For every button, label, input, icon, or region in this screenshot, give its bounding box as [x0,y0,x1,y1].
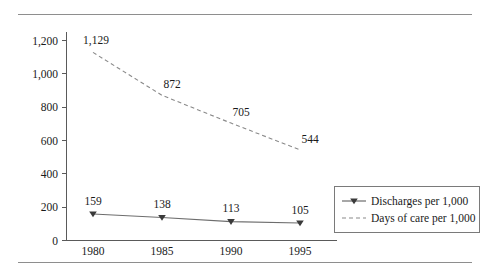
data-label-discharges-1980: 159 [84,195,102,207]
data-label-days-1980: 1,129 [83,34,109,47]
data-labels-discharges: 159 138 113 105 [84,195,309,216]
y-tick-label-1200: 1,200 [32,35,58,48]
data-label-discharges-1990: 113 [223,202,240,214]
legend-label-discharges: Discharges per 1,000 [371,195,468,207]
y-axis-ticks [62,41,67,241]
data-label-discharges-1995: 105 [291,204,309,216]
x-tick-label-1980: 1980 [82,245,105,257]
series-discharges-markers [89,211,304,226]
series-days-of-care-line [93,52,300,149]
y-tick-label-0: 0 [52,235,58,247]
legend-symbol-solid-line-triangle-icon [341,195,367,207]
data-labels-days-of-care: 1,129 872 705 544 [83,34,319,145]
data-label-days-1985: 872 [163,78,181,90]
data-label-days-1990: 705 [232,106,250,118]
data-label-discharges-1985: 138 [153,198,171,210]
y-axis-tick-labels: 1,200 1,000 800 600 400 200 0 [32,35,58,247]
chart-figure: 1,200 1,000 800 600 400 200 0 1980 1985 … [0,0,490,275]
legend-item-days-of-care: Days of care per 1,000 [341,209,473,226]
data-label-days-1995: 544 [301,133,319,145]
legend-symbol-dashed-line-icon [341,212,367,224]
x-axis-tick-labels: 1980 1985 1990 1995 [82,245,312,257]
y-tick-label-200: 200 [41,201,59,213]
y-tick-label-400: 400 [41,168,59,180]
legend-item-discharges: Discharges per 1,000 [341,192,473,209]
y-tick-label-600: 600 [41,135,59,147]
series-discharges-line [93,214,300,223]
chart-legend: Discharges per 1,000 Days of care per 1,… [334,186,480,233]
legend-label-days-of-care: Days of care per 1,000 [371,212,475,224]
line-chart-plot: 1,200 1,000 800 600 400 200 0 1980 1985 … [0,0,490,275]
x-tick-label-1985: 1985 [151,245,174,257]
y-tick-label-1000: 1,000 [32,68,58,81]
x-tick-label-1995: 1995 [289,245,312,257]
x-tick-label-1990: 1990 [220,245,243,257]
y-tick-label-800: 800 [41,101,59,113]
